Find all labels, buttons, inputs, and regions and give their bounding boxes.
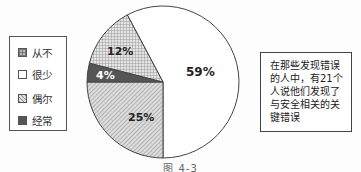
legend-item-never: 从不 — [18, 45, 52, 60]
legend-label: 经常 — [32, 113, 52, 128]
legend-label: 很少 — [32, 67, 52, 82]
dark-swatch-icon — [18, 116, 27, 125]
label-often: 4% — [96, 69, 115, 82]
label-never: 12% — [107, 45, 133, 58]
label-rarely: 59% — [186, 65, 215, 79]
legend-item-often: 经常 — [18, 113, 52, 128]
label-sometimes: 25% — [128, 111, 154, 124]
legend: 从不 很少 偶尔 经常 — [9, 36, 67, 131]
diagonal-swatch-icon — [18, 94, 27, 103]
legend-item-sometimes: 偶尔 — [18, 91, 52, 106]
annotation-box: 在那些发现错误的人中，有21个人说他们发现了与安全相关的关键错误 — [260, 52, 352, 132]
figure-caption: 图 4-3 — [0, 160, 361, 172]
legend-label: 偶尔 — [32, 91, 52, 106]
legend-label: 从不 — [32, 45, 52, 60]
white-swatch-icon — [18, 70, 27, 79]
crosshatch-swatch-icon — [18, 48, 27, 57]
legend-item-rarely: 很少 — [18, 67, 52, 82]
